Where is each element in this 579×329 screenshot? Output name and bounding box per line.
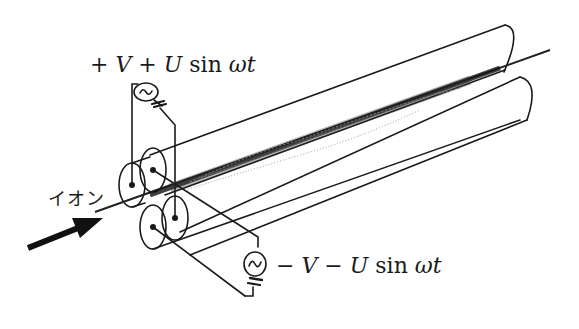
omega-t-symbol: ωt (415, 253, 442, 278)
plus-sign: + (90, 52, 108, 77)
ion-label: イオン (48, 190, 105, 208)
ion-input-arrow (28, 218, 103, 248)
omega-t-symbol: ωt (229, 52, 256, 77)
ac-amplitude-symbol: U (350, 253, 369, 278)
lower-right-rod-face (153, 120, 520, 249)
sin-function: sin (375, 253, 408, 278)
top-ac-dc-source (134, 83, 166, 107)
dc-voltage-symbol: V (115, 52, 131, 77)
rod-center-dots (129, 167, 178, 230)
bottom-ac-dc-source (244, 252, 266, 285)
bottom-voltage-label: − V − U sin ωt (276, 255, 442, 277)
plus-sign: + (138, 52, 156, 77)
upper-left-rod (119, 157, 150, 207)
sin-function: sin (189, 52, 222, 77)
upper-right-rod (150, 25, 514, 195)
minus-sign: − (276, 253, 294, 278)
top-voltage-label: + V + U sin ωt (90, 54, 256, 76)
quadrupole-diagram (0, 0, 579, 329)
bottom-wiring (153, 227, 253, 296)
dc-voltage-symbol: V (301, 253, 317, 278)
minus-sign: − (324, 253, 342, 278)
ac-amplitude-symbol: U (164, 52, 183, 77)
